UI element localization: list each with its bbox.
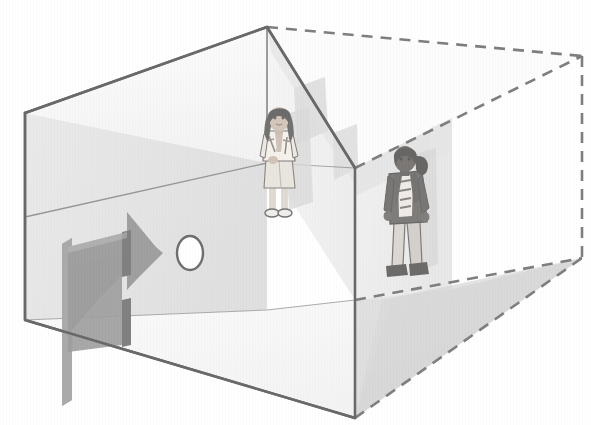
person-shoe-right [409,262,429,276]
person-leg-left [392,222,405,266]
room-diagram-scene: Isometric cutaway room diagram with two … [0,0,591,425]
girl-shoe-right [278,209,292,217]
girl-shoe-left [265,209,279,217]
figure-girl[interactable] [260,107,313,217]
person-hand-left [384,211,393,221]
person-hand-right [421,212,430,222]
girl-hands [268,156,278,164]
white-ellipse-marker[interactable] [177,236,203,270]
arrow-notch-lower [122,298,131,347]
person-shoe-left [386,264,408,277]
scene-canvas [0,0,591,425]
